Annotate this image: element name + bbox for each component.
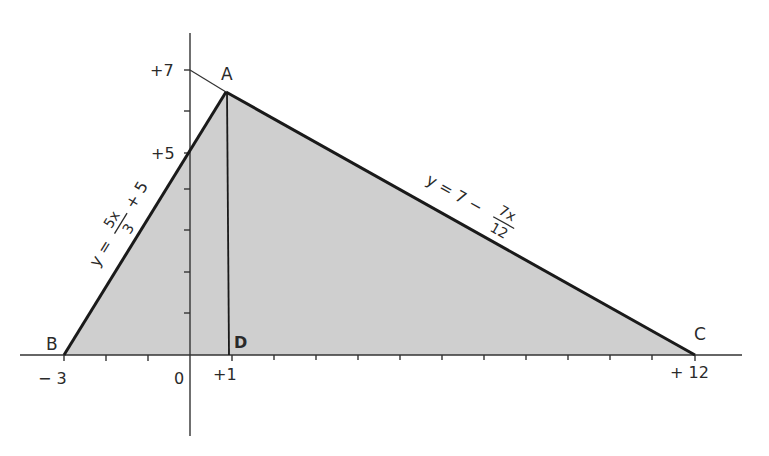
x-tick-label-plus12: + 12 <box>670 363 709 382</box>
triangle-abc-shaded-region <box>64 92 695 355</box>
svg-text:y =: y = <box>85 236 116 270</box>
point-label-b: B <box>46 334 58 354</box>
y-tick-label-plus5: +5 <box>151 144 175 163</box>
y-tick-label-plus7: +7 <box>150 61 174 80</box>
triangle-diagram: A B C D − 3 0 +1 + 12 +7 +5 y = 5x 3 + 5… <box>0 0 769 456</box>
point-label-a: A <box>221 64 233 84</box>
point-label-c: C <box>694 324 706 344</box>
x-tick-label-plus1: +1 <box>213 365 237 384</box>
svg-text:+ 5: + 5 <box>121 178 152 212</box>
x-axis-ticks <box>64 355 695 361</box>
x-tick-label-zero: 0 <box>174 369 184 388</box>
point-label-d: D <box>234 333 247 352</box>
x-tick-label-minus3: − 3 <box>38 369 67 388</box>
svg-text:3: 3 <box>119 221 137 237</box>
svg-text:12: 12 <box>488 219 511 242</box>
